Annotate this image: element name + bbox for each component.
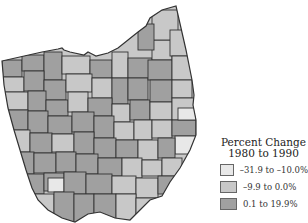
legend-swatch-high <box>220 198 237 210</box>
legend-swatch-low <box>220 164 234 176</box>
legend-item-mid: –9.9 to 0.0% <box>219 181 308 193</box>
legend-swatch-mid <box>220 181 237 193</box>
legend-label-high: 0.1 to 19.9% <box>243 199 297 209</box>
choropleth-map <box>0 0 230 223</box>
legend: Percent Change 1980 to 1990 –31.9 to –10… <box>219 137 308 210</box>
legend-label-mid: –9.9 to 0.0% <box>243 182 296 192</box>
legend-item-low: –31.9 to –10.0% <box>219 164 308 176</box>
legend-title-line2: 1980 to 1990 <box>219 148 308 159</box>
legend-item-high: 0.1 to 19.9% <box>219 198 308 210</box>
legend-label-low: –31.9 to –10.0% <box>240 165 308 175</box>
county-grid <box>0 0 230 223</box>
